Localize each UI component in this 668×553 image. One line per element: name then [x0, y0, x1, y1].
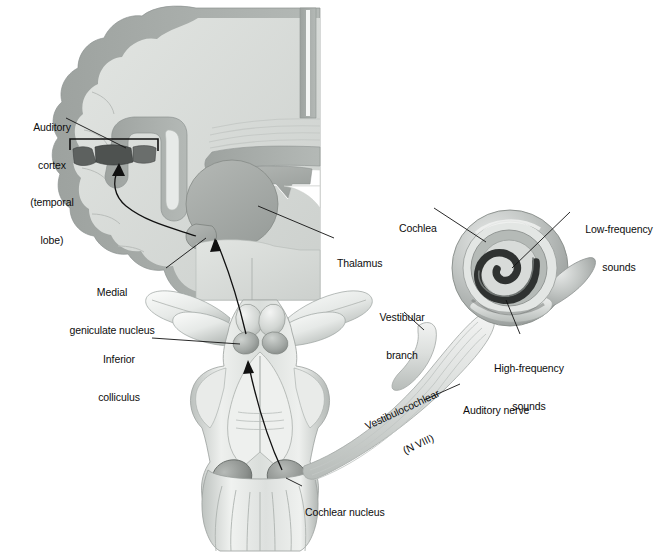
- label-auditory-cortex: Auditory cortex (temporal lobe): [14, 96, 90, 271]
- label-line: lobe): [14, 234, 90, 247]
- label-line: Thalamus: [337, 257, 382, 270]
- ventricle-cavity: [166, 130, 180, 210]
- label-cochlear-nucleus: Cochlear nucleus: [305, 481, 385, 544]
- label-line: Medial: [56, 286, 168, 299]
- label-line: High-frequency: [483, 362, 575, 375]
- label-line: sounds: [575, 261, 663, 274]
- auditory-pathway-figure: Auditory cortex (temporal lobe) Medial g…: [0, 0, 668, 553]
- label-auditory-nerve: Auditory nerve: [463, 379, 529, 442]
- label-line: Low-frequency: [575, 223, 663, 236]
- label-line: colliculus: [88, 391, 150, 404]
- label-line: Inferior: [88, 353, 150, 366]
- label-cochlea: Cochlea: [399, 197, 437, 260]
- cerebral-hemisphere: [52, 6, 320, 300]
- midline-slit: [306, 10, 310, 116]
- label-line: cortex: [14, 159, 90, 172]
- label-inferior-colliculus: Inferior colliculus: [88, 328, 150, 428]
- label-line: Cochlear nucleus: [305, 506, 385, 519]
- label-line: Auditory nerve: [463, 404, 529, 417]
- label-line: Vestibular: [370, 311, 434, 324]
- label-line: Auditory: [14, 121, 90, 134]
- label-line: Cochlea: [399, 222, 437, 235]
- label-line: (temporal: [14, 196, 90, 209]
- label-line: branch: [370, 349, 434, 362]
- label-low-frequency-sounds: Low-frequency sounds: [575, 198, 663, 298]
